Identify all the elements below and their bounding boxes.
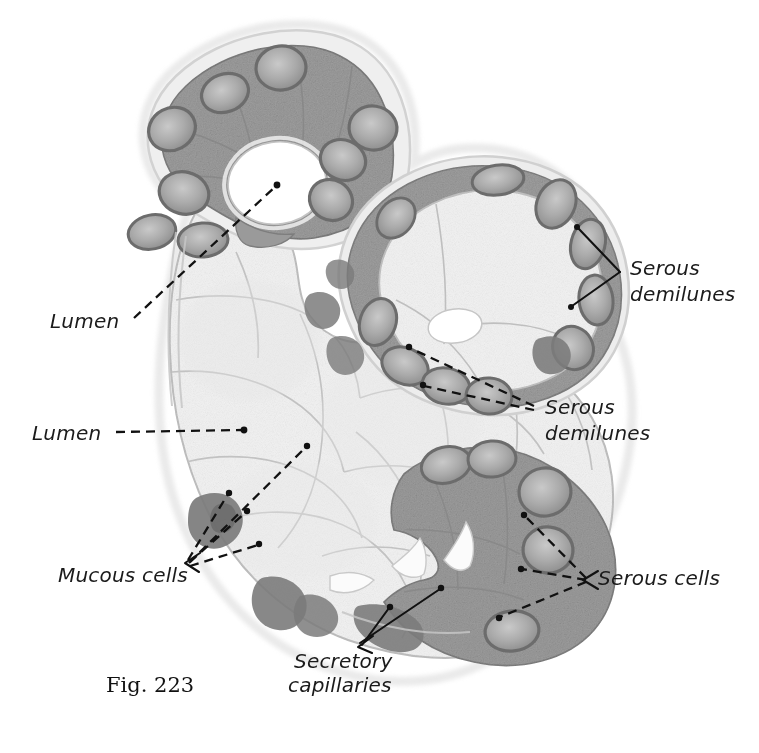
label-serous-cells: Serous cells	[598, 566, 720, 590]
figure-canvas: Lumen Lumen Mucous cells Secretory capil…	[0, 0, 759, 753]
label-serous-demilunes-mid-line1: Serous	[545, 395, 615, 419]
label-serous-demilunes-top-line2: demilunes	[630, 282, 735, 306]
label-serous-demilunes-top-line1: Serous	[630, 256, 700, 280]
figure-caption: Fig. 223	[106, 673, 194, 697]
label-mucous-cells: Mucous cells	[58, 563, 188, 587]
label-lumen-top: Lumen	[50, 309, 119, 333]
label-secretory-capillaries-line1: Secretory	[294, 649, 393, 673]
label-secretory-capillaries-line2: capillaries	[288, 673, 392, 697]
label-lumen-mid: Lumen	[32, 421, 101, 445]
histology-figure: Lumen Lumen Mucous cells Secretory capil…	[0, 0, 759, 753]
label-serous-demilunes-mid-line2: demilunes	[545, 421, 650, 445]
